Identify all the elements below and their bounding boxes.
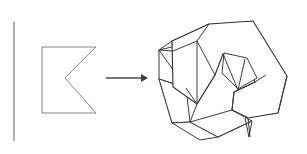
transformation-arrow bbox=[106, 74, 148, 82]
extruded-solid bbox=[159, 21, 287, 140]
shape-transformation-figure bbox=[0, 0, 307, 154]
diagram-canvas: 2D profile 3D solid extrude 2D profile e… bbox=[0, 0, 307, 154]
c-shape-profile bbox=[42, 47, 96, 113]
